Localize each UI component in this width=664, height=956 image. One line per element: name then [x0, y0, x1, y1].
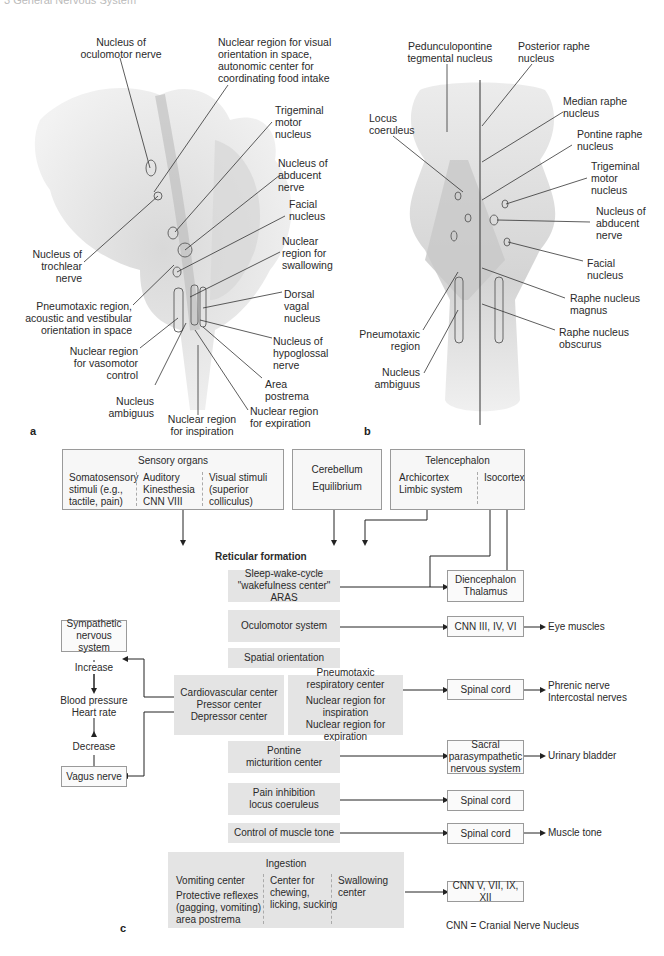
label-b-raphe-obscurus: Raphe nucleus obscurus [559, 326, 629, 350]
label-b-ambiguus: Nucleus ambiguus [360, 366, 420, 390]
blood-pressure-heart-rate: Blood pressure Heart rate [50, 695, 138, 719]
label-a-trigeminal-motor: Trigeminal motor nucleus [275, 104, 324, 140]
center-oculomotor: Oculomotor system [228, 610, 340, 642]
output-eye-muscles: Eye muscles [548, 621, 605, 633]
pneumotaxic-bottom: Nuclear region for inspiration Nuclear r… [288, 695, 403, 743]
label-a-ambiguus: Nucleus ambiguus [80, 395, 154, 419]
panel-letter-a: a [30, 425, 36, 437]
label-a-trochlear: Nucleus of trochlear nerve [20, 248, 82, 284]
sympathetic-nervous-system-box: Sympathetic nervous system [61, 620, 127, 652]
label-a-oculomotor: Nucleus of oculomotor nerve [56, 36, 186, 60]
divider [331, 874, 332, 924]
telencephalon-archicortex: Archicortex Limbic system [399, 472, 462, 496]
sensory-col-auditory: Auditory Kinesthesia CNN VIII [143, 472, 195, 508]
center-spatial-orientation: Spatial orientation [228, 648, 340, 668]
telencephalon-box: Telencephalon Archicortex Limbic system … [390, 449, 525, 510]
label-a-facial: Facial nucleus [289, 198, 325, 222]
divider [136, 472, 137, 506]
panel-b-brainstem-drawing [410, 80, 555, 425]
increase-label: Increase [61, 662, 127, 674]
sensory-organs-box: Sensory organs Somatosensory stimuli (e.… [62, 449, 284, 510]
center-ingestion: Ingestion Vomiting center Protective ref… [168, 852, 404, 928]
label-b-pneumotaxic: Pneumotaxic region [340, 328, 420, 352]
vagus-nerve-box: Vagus nerve [61, 766, 127, 787]
cerebellum-label: Cerebellum [293, 464, 381, 476]
label-b-raphe-magnus: Raphe nucleus magnus [570, 292, 640, 316]
label-b-trigeminal-motor: Trigeminal motor nucleus [591, 160, 640, 196]
output-respiratory-nerves: Phrenic nerve Intercostal nerves [548, 680, 627, 704]
divider [202, 472, 203, 506]
telencephalon-title: Telencephalon [391, 455, 524, 467]
center-pain-inhibition: Pain inhibition locus coeruleus [228, 783, 340, 815]
panel-letter-c: c [120, 922, 126, 934]
target-spinal-cord-muscle: Spinal cord [447, 823, 524, 844]
cerebellum-box: Cerebellum Equilibrium [292, 449, 382, 510]
ingestion-swallowing: Swallowing center [338, 875, 388, 899]
reticular-formation-title: Reticular formation [215, 551, 307, 563]
label-b-facial: Facial nucleus [587, 257, 623, 281]
target-cnn-eye: CNN III, IV, VI [447, 616, 524, 637]
decrease-label: Decrease [61, 741, 127, 753]
label-a-expiration: Nuclear region for expiration [250, 405, 318, 429]
label-a-vasomotor: Nuclear region for vasomotor control [40, 345, 138, 381]
label-b-abducent: Nucleus of abducent nerve [596, 205, 646, 241]
label-a-swallowing: Nuclear region for swallowing [282, 235, 333, 271]
pneumotaxic-top: Pneumotaxic respiratory center [307, 667, 385, 691]
label-b-posterior-raphe: Posterior raphe nucleus [518, 40, 590, 64]
target-spinal-cord-pain: Spinal cord [447, 790, 524, 811]
label-a-inspiration: Nuclear region for inspiration [162, 413, 242, 437]
center-pneumotaxic: Pneumotaxic respiratory center Nuclear r… [288, 675, 403, 735]
label-b-pontine-raphe: Pontine raphe nucleus [577, 128, 642, 152]
label-a-hypoglossal: Nucleus of hypoglossal nerve [273, 335, 328, 371]
label-b-locus-coeruleus: Locus coeruleus [369, 112, 415, 136]
target-diencephalon: Diencephalon Thalamus [447, 570, 524, 602]
telencephalon-isocortex: Isocortex [484, 472, 525, 484]
label-b-pedunculopontine: Pedunculopontine tegmental nucleus [400, 40, 500, 64]
ingestion-vomiting: Vomiting center [176, 875, 245, 887]
label-b-median-raphe: Median raphe nucleus [563, 95, 627, 119]
divider [477, 472, 478, 504]
ingestion-chewing: Center for chewing, licking, sucking [270, 875, 337, 911]
label-a-abducent: Nucleus of abducent nerve [278, 157, 328, 193]
sensory-col-somatosensory: Somatosensory stimuli (e.g., tactile, pa… [69, 472, 138, 508]
label-a-area-postrema: Area postrema [265, 378, 309, 402]
ingestion-title: Ingestion [168, 858, 404, 870]
center-cardiovascular: Cardiovascular center Pressor center Dep… [174, 675, 284, 735]
output-muscle-tone: Muscle tone [548, 827, 602, 839]
label-a-visual-orientation: Nuclear region for visual orientation in… [218, 36, 368, 84]
label-a-dorsal-vagal: Dorsal vagal nucleus [284, 288, 320, 324]
center-muscle-tone: Control of muscle tone [228, 823, 340, 843]
target-sacral-parasympathetic: Sacral parasympathetic nervous system [447, 740, 524, 774]
sensory-col-visual: Visual stimuli (superior colliculus) [209, 472, 283, 508]
output-urinary-bladder: Urinary bladder [548, 750, 616, 762]
target-cnn-ingestion: CNN V, VII, IX, XII [447, 881, 524, 902]
cnn-legend: CNN = Cranial Nerve Nucleus [446, 920, 579, 932]
center-sleep-wake: Sleep-wake-cycle "wakefulness center" AR… [228, 570, 340, 602]
divider [263, 874, 264, 924]
ingestion-protective-reflexes: Protective reflexes (gagging, vomiting) … [176, 890, 261, 926]
sensory-organs-title: Sensory organs [63, 455, 283, 467]
equilibrium-label: Equilibrium [293, 481, 381, 493]
panel-letter-b: b [364, 425, 371, 437]
label-a-pneumotaxic: Pneumotaxic region, acoustic and vestibu… [20, 300, 132, 336]
target-spinal-cord-resp: Spinal cord [447, 679, 524, 700]
center-micturition: Pontine micturition center [228, 741, 340, 773]
